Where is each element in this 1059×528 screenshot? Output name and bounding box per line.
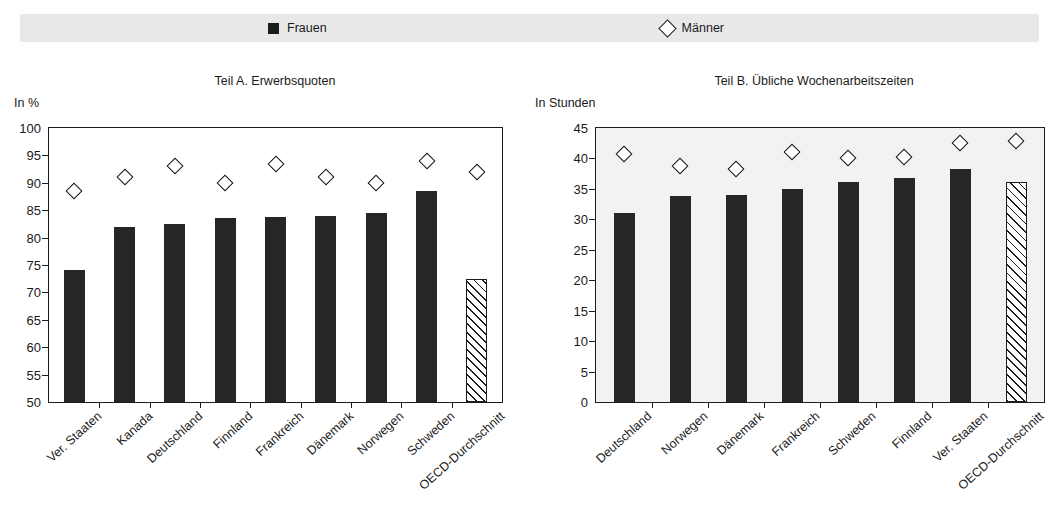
x-axis-category-label: Schweden [404, 409, 457, 458]
x-axis-category-label: Kanada [113, 409, 154, 448]
y-axis-tick [42, 347, 49, 348]
bar-b-5 [894, 178, 915, 402]
x-axis-category-label: Norwegen [659, 409, 711, 458]
y-axis-label: 65 [27, 312, 41, 327]
y-axis-label: 40 [574, 151, 588, 166]
bar-a-6 [366, 213, 387, 402]
x-axis-category-label: Finnland [889, 409, 934, 451]
panel-a-x-axis-labels: Ver. StaatenKanadaDeutschlandFinnlandFra… [48, 403, 503, 523]
x-axis-category-label: Ver. Staaten [930, 409, 990, 465]
bar-b-7 [1006, 182, 1027, 402]
bar-a-8 [466, 279, 487, 402]
bar-a-0 [64, 270, 85, 402]
legend-item-frauen: Frauen [268, 22, 327, 35]
bar-b-2 [726, 195, 747, 402]
panel-a-plot-frame: 50556065707580859095100 [48, 127, 503, 403]
x-axis-category-label: Frankreich [769, 409, 822, 459]
y-axis-label: 15 [574, 303, 588, 318]
bar-a-3 [215, 218, 236, 402]
legend-label-maenner: Männer [682, 22, 724, 35]
x-axis-category-label: Dänemark [304, 409, 356, 458]
y-axis-tick [42, 183, 49, 184]
y-axis-label: 20 [574, 273, 588, 288]
x-axis-category-label: Ver. Staaten [45, 409, 105, 465]
diamond-marker-b-4 [840, 150, 857, 167]
y-axis-tick [589, 341, 596, 342]
y-axis-tick [42, 265, 49, 266]
open-diamond-icon [658, 19, 676, 37]
bar-b-6 [950, 169, 971, 402]
y-axis-label: 95 [27, 148, 41, 163]
panel-a-plot-area: 50556065707580859095100 Ver. StaatenKana… [48, 127, 503, 403]
diamond-marker-a-2 [166, 158, 183, 175]
diamond-marker-a-0 [66, 183, 83, 200]
y-axis-label: 90 [27, 175, 41, 190]
y-axis-tick [589, 250, 596, 251]
y-axis-tick [589, 311, 596, 312]
diamond-marker-a-4 [267, 155, 284, 172]
bar-b-0 [614, 213, 635, 402]
y-axis-tick [589, 189, 596, 190]
diamond-marker-b-7 [1008, 133, 1025, 150]
bar-b-4 [838, 182, 859, 402]
y-axis-label: 85 [27, 203, 41, 218]
y-axis-label: 55 [27, 367, 41, 382]
y-axis-tick [589, 372, 596, 373]
y-axis-label: 80 [27, 230, 41, 245]
x-axis-category-label: Deutschland [593, 409, 654, 466]
y-axis-label: 45 [574, 121, 588, 136]
x-axis-category-label: Frankreich [253, 409, 306, 459]
diamond-marker-b-5 [896, 148, 913, 165]
filled-square-icon [268, 23, 279, 34]
diamond-marker-b-0 [616, 145, 633, 162]
panel-b-unit-label: In Stunden [535, 96, 595, 110]
y-axis-tick [42, 155, 49, 156]
diamond-marker-b-6 [952, 135, 969, 152]
y-axis-label: 70 [27, 285, 41, 300]
legend-item-maenner: Männer [661, 22, 724, 35]
diamond-marker-a-3 [217, 174, 234, 191]
bar-a-5 [315, 216, 336, 402]
x-axis-category-label: OECD-Durchschnitt [416, 409, 507, 493]
y-axis-tick [589, 219, 596, 220]
y-axis-label: 75 [27, 258, 41, 273]
y-axis-label: 50 [27, 395, 41, 410]
y-axis-tick [42, 292, 49, 293]
diamond-marker-b-3 [784, 144, 801, 161]
panel-a-title: Teil A. Erwerbsquoten [0, 74, 540, 88]
bar-a-7 [416, 191, 437, 402]
y-axis-tick [589, 158, 596, 159]
x-axis-category-label: Norwegen [355, 409, 407, 458]
y-axis-tick [42, 320, 49, 321]
bar-b-3 [782, 189, 803, 402]
y-axis-label: 0 [581, 395, 588, 410]
panel-b-title: Teil B. Übliche Wochenarbeitszeiten [529, 74, 1059, 88]
cropped-text-fragment [0, 0, 1059, 9]
y-axis-label: 60 [27, 340, 41, 355]
y-axis-label: 5 [581, 364, 588, 379]
y-axis-label: 35 [574, 181, 588, 196]
x-axis-category-label: Dänemark [714, 409, 766, 458]
diamond-marker-a-6 [368, 174, 385, 191]
diamond-marker-b-1 [672, 157, 689, 174]
y-axis-label: 10 [574, 334, 588, 349]
diamond-marker-b-2 [728, 161, 745, 178]
bar-a-1 [114, 227, 135, 402]
y-axis-tick [42, 238, 49, 239]
diamond-marker-a-5 [317, 169, 334, 186]
chart-legend: Frauen Männer [20, 14, 1039, 42]
legend-label-frauen: Frauen [287, 22, 327, 35]
diamond-marker-a-1 [116, 169, 133, 186]
chart-panel-a: Teil A. Erwerbsquoten In % 5055606570758… [0, 66, 530, 528]
y-axis-tick [42, 210, 49, 211]
bar-b-1 [670, 196, 691, 402]
panel-b-plot-area: 051015202530354045 DeutschlandNorwegenDä… [595, 127, 1045, 403]
panel-a-unit-label: In % [14, 96, 39, 110]
x-axis-category-label: Finnland [211, 409, 256, 451]
bar-a-2 [164, 224, 185, 402]
y-axis-tick [589, 280, 596, 281]
bar-a-4 [265, 217, 286, 402]
panel-b-plot-frame: 051015202530354045 [595, 127, 1045, 403]
y-axis-tick [42, 375, 49, 376]
y-axis-label: 25 [574, 242, 588, 257]
